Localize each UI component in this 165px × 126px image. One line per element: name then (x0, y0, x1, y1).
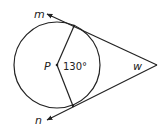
radius-top (57, 26, 74, 65)
center-point (56, 64, 59, 67)
label-n: n (35, 114, 42, 126)
tangent-line-n (47, 65, 157, 120)
tangent-point-top (73, 25, 75, 27)
label-m: m (34, 8, 45, 21)
tangent-point-bottom (72, 105, 74, 107)
label-w: w (133, 60, 142, 73)
label-angle-130: 130° (63, 61, 87, 72)
tangent-line-m (47, 14, 157, 65)
tangent-diagram: m n P 130° w (0, 0, 165, 126)
label-p: P (44, 60, 51, 73)
